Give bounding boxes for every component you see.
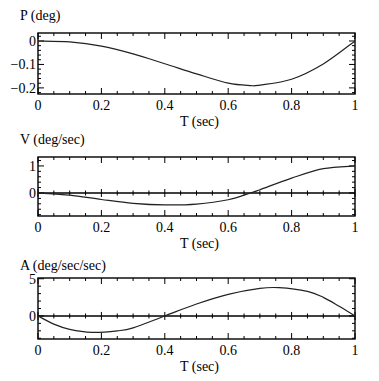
position-panel: P (deg)00.20.40.60.81T (sec)0−0.1−0.2 <box>11 8 359 130</box>
x-tick-label: 0 <box>35 343 42 358</box>
x-tick-label: 1 <box>352 343 359 358</box>
x-tick-label: 0 <box>35 220 42 235</box>
x-tick-label: 0 <box>35 98 42 113</box>
position-frame <box>38 33 355 94</box>
y-tick-label: 0 <box>29 309 36 324</box>
y-tick-label: 1 <box>29 159 36 174</box>
x-tick-label: 1 <box>352 98 359 113</box>
x-tick-label: 0.4 <box>156 343 174 358</box>
x-tick-label: 0.2 <box>93 343 111 358</box>
velocity-curve <box>38 166 355 205</box>
y-tick-label: −0.1 <box>11 57 36 72</box>
velocity-ylabel: V (deg/sec) <box>20 132 85 148</box>
kinematics-figure: P (deg)00.20.40.60.81T (sec)0−0.1−0.2V (… <box>0 0 379 381</box>
x-tick-label: 0.2 <box>93 98 111 113</box>
x-tick-label: 0.6 <box>219 343 237 358</box>
velocity-frame <box>38 157 355 216</box>
y-tick-label: 0 <box>29 34 36 49</box>
velocity-panel: V (deg/sec)00.20.40.60.81T (sec)10 <box>20 132 359 252</box>
velocity-xlabel: T (sec) <box>180 236 219 252</box>
x-tick-label: 0.8 <box>283 343 301 358</box>
acceleration-curve <box>38 287 355 332</box>
x-tick-label: 0.6 <box>219 220 237 235</box>
x-tick-label: 0.4 <box>156 220 174 235</box>
y-tick-label: −0.2 <box>11 81 36 96</box>
x-tick-label: 0.4 <box>156 98 174 113</box>
position-xlabel: T (sec) <box>180 114 219 130</box>
acceleration-panel: A (deg/sec/sec)00.20.40.60.81T (sec)50 <box>20 258 359 375</box>
x-tick-label: 0.6 <box>219 98 237 113</box>
x-tick-label: 0.2 <box>93 220 111 235</box>
y-tick-label: 5 <box>29 272 36 287</box>
acceleration-xlabel: T (sec) <box>180 359 219 375</box>
x-tick-label: 0.8 <box>283 98 301 113</box>
x-tick-label: 0.8 <box>283 220 301 235</box>
y-tick-label: 0 <box>29 186 36 201</box>
x-tick-label: 1 <box>352 220 359 235</box>
position-curve <box>38 41 355 86</box>
position-ylabel: P (deg) <box>20 8 61 24</box>
acceleration-frame <box>38 278 355 339</box>
